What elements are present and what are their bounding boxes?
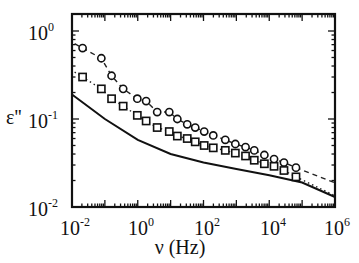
y-tick-label-0: 100 bbox=[28, 20, 54, 44]
circle-marker bbox=[261, 151, 268, 158]
x-tick-label-3: 104 bbox=[260, 215, 286, 239]
circle-marker bbox=[242, 143, 249, 150]
square-marker bbox=[210, 144, 217, 151]
x-tick-label-4: 106 bbox=[324, 215, 350, 239]
circle-marker bbox=[120, 85, 127, 92]
y-tick-label-2: 10-2 bbox=[28, 196, 58, 220]
dielectric-loss-chart: 100 10-1 10-2 10-2 100 102 104 106 ν (Hz… bbox=[0, 0, 359, 263]
circle-marker bbox=[280, 159, 287, 166]
square-marker bbox=[192, 138, 199, 145]
circle-marker bbox=[192, 124, 199, 131]
y-axis-title: ε'' bbox=[6, 106, 22, 128]
square-marker bbox=[261, 160, 268, 167]
square-marker bbox=[201, 142, 208, 149]
y-tick-label-1: 10-1 bbox=[28, 108, 58, 132]
square-marker bbox=[134, 112, 141, 119]
circle-marker bbox=[98, 55, 105, 62]
circle-marker bbox=[232, 140, 239, 147]
circle-marker bbox=[210, 132, 217, 139]
circle-marker bbox=[251, 147, 258, 154]
square-marker bbox=[232, 149, 239, 156]
square-marker bbox=[120, 103, 127, 110]
square-marker bbox=[98, 85, 105, 92]
data-markers bbox=[79, 44, 300, 180]
circle-marker bbox=[270, 156, 277, 163]
circle-marker bbox=[108, 72, 115, 79]
square-marker bbox=[251, 157, 258, 164]
circle-marker bbox=[222, 136, 229, 143]
circle-marker bbox=[154, 108, 161, 115]
square-marker bbox=[154, 124, 161, 131]
circle-marker bbox=[292, 164, 299, 171]
square-marker bbox=[108, 95, 115, 102]
square-marker bbox=[242, 152, 249, 159]
square-marker bbox=[79, 73, 86, 80]
circle-marker bbox=[79, 44, 86, 51]
circle-marker bbox=[166, 108, 173, 115]
x-axis-title: ν (Hz) bbox=[155, 236, 206, 259]
circle-marker bbox=[201, 128, 208, 135]
square-marker bbox=[270, 163, 277, 170]
x-tick-label-0: 10-2 bbox=[60, 215, 90, 239]
circle-marker bbox=[143, 97, 150, 104]
square-marker bbox=[166, 128, 173, 135]
circle-marker bbox=[184, 121, 191, 128]
square-marker bbox=[143, 117, 150, 124]
circle-marker bbox=[134, 95, 141, 102]
square-marker bbox=[174, 132, 181, 139]
circle-marker bbox=[174, 115, 181, 122]
square-marker bbox=[280, 167, 287, 174]
x-tick-label-1: 100 bbox=[128, 215, 154, 239]
square-marker bbox=[292, 173, 299, 180]
square-marker bbox=[184, 135, 191, 142]
square-marker bbox=[222, 147, 229, 154]
